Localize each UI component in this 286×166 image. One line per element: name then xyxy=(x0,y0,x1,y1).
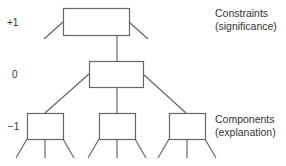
constraints-annotation: Constraints (significance) xyxy=(215,7,277,33)
significance-label: (significance) xyxy=(215,20,277,33)
level-plus1-box xyxy=(64,9,130,36)
level-label-0: 0 xyxy=(12,69,18,80)
level-minus1-box-right xyxy=(170,114,206,140)
level-minus1-box-middle xyxy=(100,114,136,140)
components-label: Components xyxy=(215,113,276,126)
level-minus1-box-left xyxy=(28,114,64,140)
level-0-box xyxy=(90,62,144,88)
level-label-plus1: +1 xyxy=(7,17,18,28)
level-label-minus1: −1 xyxy=(8,121,19,132)
components-annotation: Components (explanation) xyxy=(215,113,276,139)
constraints-label: Constraints xyxy=(215,7,277,20)
explanation-label: (explanation) xyxy=(215,126,276,139)
